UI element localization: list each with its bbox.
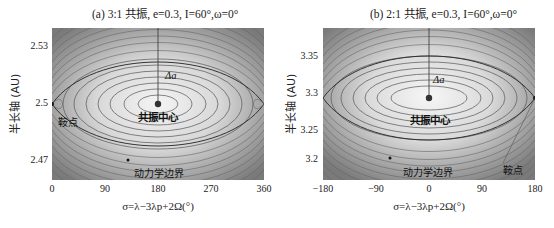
panel-a-title-params: e=0.3, I=60°,ω=0°	[153, 8, 238, 20]
panel-b-title-params: e=0.3, I=60°,ω=0°	[432, 8, 517, 20]
panel-a-delta-a-label: Δa	[165, 70, 176, 81]
panel-b-xtick: −90	[356, 183, 396, 194]
panel-a-ytick: 2.5	[18, 97, 48, 108]
panel-a-ylabel: 半长轴 (AU)	[6, 64, 22, 144]
panel-a-ytick: 2.53	[18, 40, 48, 51]
panel-b-ytick: 3.2	[288, 153, 318, 164]
panel-b-xtick: 90	[462, 183, 502, 194]
panel-b-xtick: 0	[409, 183, 449, 194]
panel-a-contour-plot	[52, 28, 264, 180]
panel-a-title-prefix: (a) 3:1 共振,	[92, 8, 153, 20]
panel-b-xlabel: σ=λ−3λp+2Ω(°)	[329, 200, 529, 212]
panel-b-ylabel: 半长轴 (AU)	[282, 64, 298, 144]
panel-a-xtick: 0	[32, 183, 72, 194]
panel-a-title: (a) 3:1 共振, e=0.3, I=60°,ω=0°	[92, 5, 238, 21]
panel-b-xtick: 180	[515, 183, 554, 194]
panel-a-xlabel: σ=λ−3λp+2Ω(°)	[58, 200, 258, 212]
panel-a-xtick: 270	[191, 183, 231, 194]
panel-b-title-prefix: (b) 2:1 共振,	[370, 8, 432, 20]
panel-b-delta-a-label: Δa	[433, 74, 444, 85]
panel-a-ytick: 2.47	[18, 154, 48, 165]
panel-a-xtick: 90	[85, 183, 125, 194]
panel-a-resonance-center-label: 共振中心	[138, 109, 178, 124]
panel-a-xtick: 360	[244, 183, 284, 194]
panel-a-xtick: 180	[138, 183, 178, 194]
panel-a-saddle-label: 鞍点	[58, 114, 78, 129]
panel-b-resonance-center-label: 共振中心	[410, 112, 450, 127]
panel-a-boundary-label: 动力学边界	[134, 165, 184, 180]
panel-b-contour-plot	[323, 28, 535, 180]
panel-b-title: (b) 2:1 共振, e=0.3, I=60°,ω=0°	[370, 5, 517, 21]
panel-b-saddle-label: 鞍点	[503, 162, 523, 177]
panel-b-boundary-label: 动力学边界	[403, 164, 453, 179]
panel-b-xtick: −180	[303, 183, 343, 194]
panel-b-ytick: 3.35	[288, 50, 318, 61]
